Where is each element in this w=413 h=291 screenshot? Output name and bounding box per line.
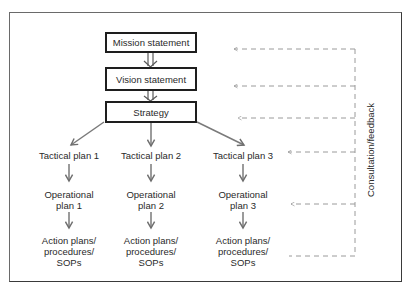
tactical-plan-2: Tactical plan 2 — [121, 150, 181, 161]
tactical-plan-3: Tactical plan 3 — [213, 150, 273, 161]
double-arrow-mission-vision — [144, 52, 157, 67]
action-plans-2: Action plans/ procedures/ SOPs — [124, 235, 178, 268]
strategy-box: Strategy — [105, 101, 197, 123]
action-plans-3: Action plans/ procedures/ SOPs — [216, 235, 270, 268]
tactical-plan-1: Tactical plan 1 — [39, 150, 99, 161]
double-arrow-vision-strategy — [144, 91, 157, 101]
mission-statement-label: Mission statement — [113, 37, 190, 48]
consultation-feedback-label: Consultation/feedback — [365, 103, 376, 197]
operational-plan-2: Operational plan 2 — [126, 189, 175, 211]
operational-plan-3: Operational plan 3 — [218, 189, 267, 211]
arrow-strategy-tactical-3 — [197, 122, 244, 145]
action-plans-1: Action plans/ procedures/ SOPs — [42, 235, 96, 268]
vision-statement-label: Vision statement — [116, 74, 186, 85]
arrow-strategy-tactical-1 — [71, 122, 104, 145]
strategy-label: Strategy — [133, 107, 168, 118]
mission-statement-box: Mission statement — [105, 32, 197, 53]
vision-statement-box: Vision statement — [105, 67, 197, 91]
operational-plan-1: Operational plan 1 — [44, 189, 93, 211]
